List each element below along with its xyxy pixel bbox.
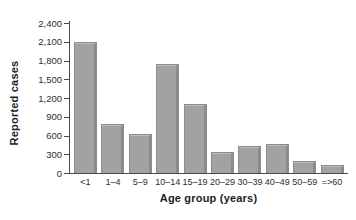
bar-1 (101, 124, 124, 173)
bar-6 (238, 146, 261, 173)
x-axis-line (69, 173, 348, 174)
x-axis-title: Age group (years) (69, 192, 348, 204)
y-tick-label-7: 2,100 (22, 37, 62, 47)
bar-8 (293, 161, 316, 173)
y-tick-label-3: 900 (22, 112, 62, 122)
bar-9 (321, 165, 344, 173)
bar-2 (129, 134, 152, 173)
bar-chart-figure: Reported cases 03006009001,2001,5001,800… (0, 0, 356, 220)
y-tick-label-8: 2,400 (22, 19, 62, 29)
y-axis-line (69, 21, 70, 173)
x-tick-label-9: =>60 (310, 177, 354, 187)
y-tick-label-1: 300 (22, 150, 62, 160)
bar-3 (156, 64, 179, 173)
bar-5 (211, 152, 234, 173)
y-tick-label-0: 0 (22, 169, 62, 179)
y-axis-title: Reported cases (8, 55, 20, 151)
y-tick-label-5: 1,500 (22, 75, 62, 85)
y-tick-label-6: 1,800 (22, 56, 62, 66)
y-tick-label-2: 600 (22, 131, 62, 141)
bar-7 (266, 144, 289, 173)
y-tick-label-4: 1,200 (22, 94, 62, 104)
bar-4 (184, 104, 207, 173)
bar-0 (74, 42, 97, 173)
